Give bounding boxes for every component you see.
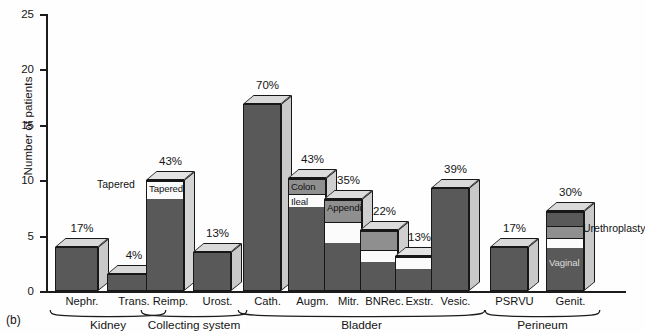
bar-side-face: [584, 202, 595, 291]
bar-segment: [56, 248, 97, 290]
group-label-perineum: Perineum: [484, 318, 601, 332]
data-label-nephr: 17%: [51, 222, 113, 234]
segment-label-colon: Colon: [291, 181, 316, 192]
panel-tag: (b): [6, 313, 21, 327]
bar-segment: [491, 248, 527, 290]
bar-segment: [244, 105, 280, 290]
bar-segment: [547, 212, 583, 226]
segment-label-tapered: Tapered: [149, 183, 183, 194]
bar-front-face: [243, 104, 281, 291]
bar-front-face: [490, 247, 528, 291]
bar-front-face: [395, 256, 433, 291]
bar-segment: [108, 275, 149, 290]
bar-front-face: [107, 274, 150, 291]
bar-segment: [361, 262, 397, 290]
y-tick-label-0: 0: [4, 286, 34, 297]
data-label-vesic: 39%: [427, 163, 484, 175]
data-label-mitr: 35%: [320, 174, 377, 186]
category-label-genit: Genit.: [536, 295, 605, 307]
y-axis-title: Number of patients: [22, 46, 34, 206]
bar-segment: [325, 243, 361, 290]
y-tick-label-25: 25: [4, 9, 34, 20]
group-label-bladder: Bladder: [237, 318, 486, 332]
data-label-cath: 70%: [239, 79, 296, 91]
y-tick-20: [40, 69, 48, 71]
segment-label-ileal: Ileal: [291, 196, 308, 207]
y-tick-15: [40, 125, 48, 127]
segment-label-vaginal: Vaginal: [549, 257, 580, 268]
bar-psrvu[interactable]: [490, 247, 528, 291]
bar-front-face: IlealColon: [288, 178, 326, 291]
annotation-urethroplasty: Urethroplasty: [583, 222, 645, 234]
data-label-augm: 43%: [284, 153, 341, 165]
bar-segment: [547, 226, 583, 238]
bar-segment: Tapered: [147, 181, 183, 198]
group-label-collecting-system: Collecting system: [140, 318, 248, 332]
bar-front-face: [193, 252, 231, 291]
bar-front-face: [55, 247, 98, 291]
bar-augm[interactable]: IlealColon: [288, 178, 326, 291]
bar-cath[interactable]: [243, 104, 281, 291]
bar-urost[interactable]: [193, 252, 231, 291]
y-tick-0: [40, 291, 48, 293]
bar-segment: [396, 257, 432, 270]
y-tick-25: [40, 14, 48, 16]
data-label-reimp: 43%: [142, 155, 199, 167]
bar-front-face: Tapered: [146, 180, 184, 291]
bar-segment: [325, 222, 361, 244]
bar-side-face: [469, 179, 480, 291]
data-label-psrvu: 17%: [486, 222, 543, 234]
bar-side-face: [231, 243, 242, 291]
bar-segment: [396, 269, 432, 290]
data-label-genit: 30%: [542, 186, 599, 198]
bar-segment: [194, 253, 230, 290]
bar-side-face: [528, 238, 539, 291]
bar-nephr[interactable]: [55, 247, 98, 291]
bar-segment: [361, 250, 397, 262]
y-axis-line: [46, 14, 48, 292]
bar-genit[interactable]: Vaginal: [546, 211, 584, 291]
x-axis-line: [46, 291, 626, 293]
y-tick-5: [40, 236, 48, 238]
bar-exstr[interactable]: [395, 256, 433, 291]
bar-segment: [432, 189, 468, 290]
bar-segment: [547, 238, 583, 248]
data-label-urost: 13%: [189, 227, 246, 239]
y-tick-label-5: 5: [4, 231, 34, 242]
bar-segment: [289, 207, 325, 290]
bar-trans[interactable]: [107, 274, 150, 291]
bar-vesic[interactable]: [431, 188, 469, 291]
bar-reimp[interactable]: Tapered: [146, 180, 184, 291]
bar-segment: Vaginal: [547, 248, 583, 290]
bar-front-face: Vaginal: [546, 211, 584, 291]
data-label-bnrec: 22%: [356, 205, 413, 217]
y-tick-10: [40, 180, 48, 182]
annotation-tapered: Tapered: [97, 178, 135, 190]
bar-segment: Ileal: [289, 194, 325, 207]
bar-segment: [147, 199, 183, 290]
bar-front-face: [431, 188, 469, 291]
